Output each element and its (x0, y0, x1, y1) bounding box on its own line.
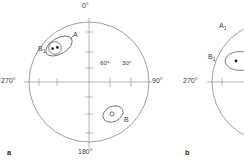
panel-a-cluster-A-label: A (73, 31, 78, 38)
panel-a-label-north: 0° (82, 2, 89, 9)
cluster-A-inner-circle (49, 42, 62, 55)
cluster-A-confidence-ellipse (42, 32, 75, 60)
panel-b-group (207, 22, 244, 142)
panel-b-cluster-B1-label: B1 (208, 53, 215, 62)
cluster-A-point-2 (56, 46, 59, 49)
panel-b-cluster-B1-label-sub: 1 (213, 56, 216, 62)
panel-a-inclination-label-60: 60° (100, 60, 109, 66)
panel-a-label-west: 270° (1, 77, 15, 84)
cluster-B-confidence-ellipse (100, 103, 125, 126)
panel-b-cluster-B1 (225, 52, 244, 71)
panel-b-cluster-A-label-sub: 1 (224, 25, 227, 31)
cluster-A-point-1 (51, 47, 54, 50)
panel-a-cluster-B (100, 103, 125, 126)
cluster-B-open-point (110, 112, 114, 116)
panel-a-tag: a (7, 148, 11, 157)
stereonet-graphics (0, 0, 244, 162)
panel-b-label-west: 270° (183, 77, 197, 84)
panel-a-inclination-label-30: 30° (122, 60, 131, 66)
panel-a-label-south: 180° (78, 148, 92, 155)
panel-b-tag: b (185, 148, 190, 157)
figure-canvas: 0° 90° 180° 270° 60° 30° A B1 B a 270° A… (0, 0, 244, 162)
panel-a-cluster-A (42, 32, 75, 60)
panel-a-cluster-B1-label: B1 (38, 45, 45, 54)
panel-b-cluster-B1-point (235, 60, 238, 63)
panel-a-group (24, 18, 152, 148)
panel-a-cluster-B-label: B (124, 116, 129, 123)
panel-b-cluster-B1-ellipse (225, 52, 244, 71)
panel-a-label-east: 90° (152, 77, 163, 84)
panel-b-cluster-A-label: A1 (219, 22, 226, 31)
panel-a-cluster-B1-label-sub: 1 (43, 48, 46, 54)
